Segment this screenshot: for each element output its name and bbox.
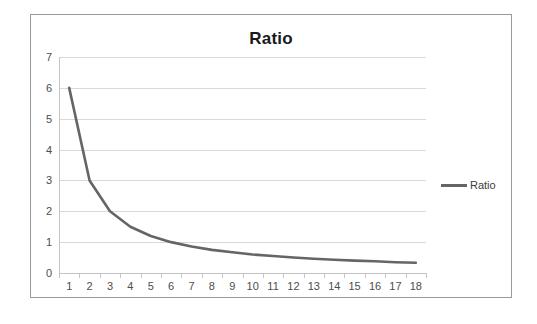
- x-axis-tick-label: 11: [267, 280, 278, 292]
- x-axis-tick: [385, 273, 386, 278]
- x-axis-tick: [161, 273, 162, 278]
- x-axis-tick: [59, 273, 60, 278]
- x-axis-tick-label: 18: [410, 280, 422, 292]
- x-axis-tick: [283, 273, 284, 278]
- y-axis-tick-label: 3: [46, 174, 52, 186]
- x-axis-tick-label: 3: [107, 280, 113, 292]
- chart-legend: Ratio: [441, 179, 496, 191]
- y-axis-tick-label: 6: [46, 82, 52, 94]
- x-axis-tick: [100, 273, 101, 278]
- x-axis-tick-labels: 123456789101112131415161718: [59, 280, 426, 296]
- x-axis-tick: [243, 273, 244, 278]
- x-axis-tick-label: 8: [209, 280, 215, 292]
- x-axis-tick: [120, 273, 121, 278]
- x-axis-tick-label: 14: [328, 280, 340, 292]
- x-axis-tick: [79, 273, 80, 278]
- x-axis-tick: [141, 273, 142, 278]
- y-axis-tick-label: 7: [46, 51, 52, 63]
- x-axis-tick-label: 2: [87, 280, 93, 292]
- x-axis-tick: [324, 273, 325, 278]
- x-axis-tick-label: 10: [247, 280, 259, 292]
- x-axis-tick-label: 6: [168, 280, 174, 292]
- plot-area: 01234567 123456789101112131415161718: [59, 57, 426, 273]
- x-axis-tick: [426, 273, 427, 278]
- y-axis-tick-label: 2: [46, 205, 52, 217]
- series-path-ratio: [69, 88, 416, 263]
- chart-title: Ratio: [31, 29, 511, 49]
- x-axis-tick-label: 13: [308, 280, 320, 292]
- x-axis-tick-label: 4: [127, 280, 133, 292]
- x-axis-tick-marks: [59, 273, 426, 278]
- chart-frame: Ratio 01234567 1234567891011121314151617…: [30, 14, 512, 298]
- x-axis-tick: [263, 273, 264, 278]
- series-line-ratio: [59, 57, 426, 273]
- x-axis-tick: [406, 273, 407, 278]
- x-axis-tick-label: 5: [148, 280, 154, 292]
- x-axis-tick: [344, 273, 345, 278]
- x-axis-tick-label: 15: [349, 280, 361, 292]
- x-axis-tick: [202, 273, 203, 278]
- y-axis-tick-label: 1: [46, 236, 52, 248]
- x-axis-tick: [304, 273, 305, 278]
- x-axis-tick-label: 1: [66, 280, 72, 292]
- x-axis-tick: [222, 273, 223, 278]
- x-axis-tick: [365, 273, 366, 278]
- x-axis-tick-label: 17: [389, 280, 401, 292]
- y-axis-tick-label: 4: [46, 144, 52, 156]
- y-axis-tick-label: 5: [46, 113, 52, 125]
- legend-swatch-ratio: [441, 184, 467, 187]
- legend-label-ratio: Ratio: [470, 179, 496, 191]
- x-axis-tick-label: 12: [287, 280, 299, 292]
- x-axis-tick: [181, 273, 182, 278]
- y-axis-tick-label: 0: [46, 267, 52, 279]
- x-axis-tick-label: 9: [229, 280, 235, 292]
- x-axis-tick-label: 16: [369, 280, 381, 292]
- x-axis-tick-label: 7: [188, 280, 194, 292]
